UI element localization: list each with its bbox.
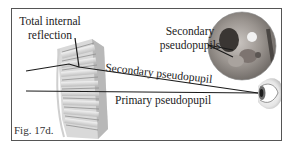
- label-tir-line1: Total internal: [13, 15, 87, 29]
- label-primary-pseudopupil: Primary pseudopupil: [115, 95, 211, 107]
- label-sec-pupils-line2: pseudopupils: [152, 38, 228, 52]
- ommatidia-bundle: [57, 39, 108, 139]
- figure-caption: Fig. 17d.: [14, 125, 53, 136]
- figure-frame: Total internal reflection Secondary pseu…: [11, 8, 282, 141]
- label-tir-line2: reflection: [13, 29, 87, 43]
- label-secondary-pseudopupils: Secondary pseudopupils: [152, 24, 228, 53]
- label-sec-pupils-line1: Secondary: [152, 24, 228, 38]
- label-total-internal-reflection: Total internal reflection: [13, 15, 87, 43]
- eye-icon: [258, 78, 282, 109]
